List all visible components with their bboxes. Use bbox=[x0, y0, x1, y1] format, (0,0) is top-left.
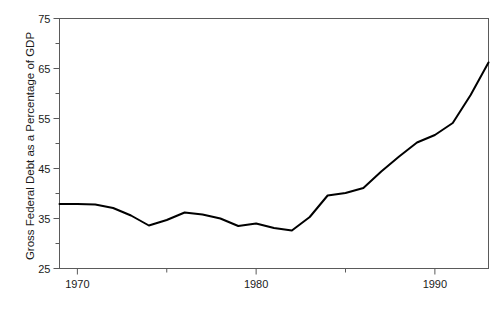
y-tick-label: 35 bbox=[25, 213, 51, 225]
y-tick-label: 55 bbox=[25, 113, 51, 125]
x-axis-major-ticks bbox=[77, 269, 435, 275]
y-tick-label: 75 bbox=[25, 13, 51, 25]
y-axis-minor-ticks bbox=[56, 44, 60, 244]
plot-frame bbox=[60, 19, 489, 269]
chart-figure: Gross Federal Debt as a Percentage of GD… bbox=[0, 0, 497, 315]
y-tick-label: 65 bbox=[25, 63, 51, 75]
line-chart-plot bbox=[0, 0, 497, 315]
x-tick-label: 1990 bbox=[412, 278, 458, 290]
y-tick-label: 45 bbox=[25, 163, 51, 175]
x-tick-label: 1980 bbox=[233, 278, 279, 290]
debt-gdp-line-series bbox=[60, 63, 489, 231]
y-tick-label: 25 bbox=[25, 263, 51, 275]
x-tick-label: 1970 bbox=[54, 278, 100, 290]
